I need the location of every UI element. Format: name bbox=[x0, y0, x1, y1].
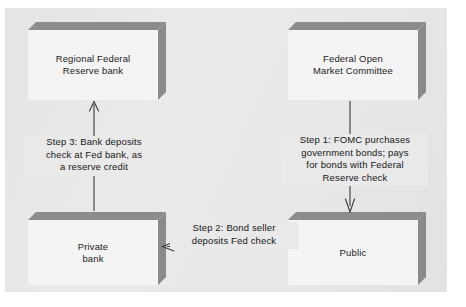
node-federal-open-market-committee[interactable]: Federal Open Market Committee bbox=[288, 22, 418, 100]
node-private-bank[interactable]: Private bank bbox=[28, 212, 158, 285]
box-front-face: Federal Open Market Committee bbox=[288, 30, 418, 100]
box-front-face: Public bbox=[288, 220, 418, 285]
box-top-bevel bbox=[28, 22, 166, 30]
step-1-label: Step 1: FOMC purchases government bonds;… bbox=[282, 134, 428, 184]
box-top-bevel bbox=[288, 212, 426, 220]
node-label-public: Public bbox=[340, 247, 367, 259]
node-public[interactable]: Public bbox=[288, 212, 418, 285]
node-label-federal-open-market-committee: Federal Open Market Committee bbox=[313, 53, 393, 77]
node-label-regional-federal-reserve-bank: Regional Federal Reserve bank bbox=[56, 53, 131, 77]
box-top-bevel bbox=[28, 212, 166, 220]
step-2-label: Step 2: Bond seller deposits Fed check bbox=[170, 222, 298, 247]
box-front-face: Regional Federal Reserve bank bbox=[28, 30, 158, 100]
node-label-private-bank: Private bank bbox=[78, 241, 109, 265]
node-regional-federal-reserve-bank[interactable]: Regional Federal Reserve bank bbox=[28, 22, 158, 100]
box-right-bevel bbox=[418, 22, 426, 100]
box-right-bevel bbox=[158, 22, 166, 100]
box-front-face: Private bank bbox=[28, 220, 158, 285]
box-right-bevel bbox=[418, 212, 426, 285]
diagram-canvas: Regional Federal Reserve bank Federal Op… bbox=[0, 0, 466, 307]
step-3-label: Step 3: Bank deposits check at Fed bank,… bbox=[24, 136, 164, 174]
box-top-bevel bbox=[288, 22, 426, 30]
box-right-bevel bbox=[158, 212, 166, 285]
